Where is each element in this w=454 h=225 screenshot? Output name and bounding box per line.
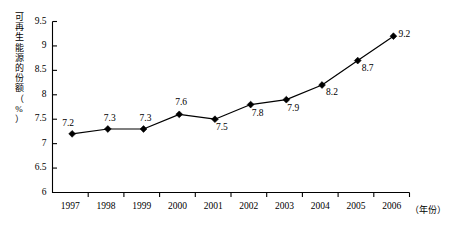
line-chart: 可再生能源的份额（%） 66.577.588.599.5 19971998199…: [0, 0, 454, 225]
y-tick-label: 9.5: [21, 16, 47, 26]
data-point-label: 8.2: [326, 87, 338, 97]
y-tick-label: 8.5: [21, 64, 47, 74]
x-tick-label: 2002: [229, 201, 269, 211]
y-tick-label: 7.5: [21, 113, 47, 123]
data-point-label: 7.2: [62, 118, 74, 128]
data-point-marker: [104, 126, 111, 133]
x-tick-label: 1999: [122, 201, 162, 211]
x-tick-label: 2001: [193, 201, 233, 211]
data-point-label: 9.2: [398, 29, 410, 39]
y-tick-label: 6: [21, 187, 47, 197]
data-point-marker: [319, 82, 326, 89]
data-point-marker: [140, 126, 147, 133]
axis-lines: [53, 22, 410, 193]
data-point-label: 7.5: [216, 122, 228, 132]
x-tick-label: 2000: [157, 201, 197, 211]
x-tick-label: 2005: [336, 201, 376, 211]
data-point-marker: [390, 33, 397, 40]
y-tick-label: 8: [21, 89, 47, 99]
x-axis-title: （年份）: [410, 203, 446, 216]
data-point-label: 7.8: [252, 108, 264, 118]
data-point-label: 7.9: [287, 103, 299, 113]
x-tick-label: 2003: [265, 201, 305, 211]
plot-area: [0, 0, 454, 225]
x-tick-label: 1997: [50, 201, 90, 211]
series-line: [72, 36, 393, 134]
x-tick-label: 2006: [372, 201, 412, 211]
x-tick-label: 1998: [86, 201, 126, 211]
data-point-marker: [354, 57, 361, 64]
data-point-label: 7.3: [104, 113, 116, 123]
y-tick-label: 7: [21, 138, 47, 148]
data-point-label: 8.7: [362, 63, 374, 73]
data-point-label: 7.3: [140, 113, 152, 123]
data-point-marker: [176, 111, 183, 118]
x-tick-label: 2004: [300, 201, 340, 211]
data-point-marker: [69, 130, 76, 137]
y-tick-label: 9: [21, 40, 47, 50]
data-point-label: 7.6: [175, 97, 187, 107]
y-tick-label: 6.5: [21, 162, 47, 172]
